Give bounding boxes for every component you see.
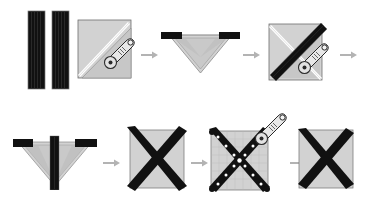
arrow-right-4: [103, 154, 120, 164]
triangle-center-strip-icon: [13, 128, 97, 190]
step-4-square-diagonal-strip-cutter: square with dark diagonal strip, trimmed…: [263, 15, 335, 87]
square-diagonal-cutter-icon: [76, 18, 142, 82]
triangle-strips-icon: [161, 29, 240, 77]
step-3-triangle-strips: folded triangle with dark strips at the …: [161, 29, 240, 77]
arrow-right-2: [243, 46, 260, 56]
two-strips-icon: [25, 9, 73, 91]
arrow-right-5: [191, 154, 208, 164]
step-8-square-x-final: completed trimmed X block: [295, 126, 357, 192]
step-2-square-diagonal-cutter: light square folded on the diagonal, cut…: [76, 18, 142, 82]
step-1-two-strips: two dark fabric strips: [25, 9, 73, 91]
square-x-icon: [126, 126, 188, 192]
arrow-right-3: [340, 46, 357, 56]
arrow-right-1: [141, 46, 158, 56]
step-6-square-x: finished square with dark X: [126, 126, 188, 192]
square-x-final-icon: [295, 126, 357, 192]
diagram-canvas: Quilt block assembly steps two dark fabr…: [0, 0, 366, 208]
rotary-cutter-icon: [256, 114, 287, 145]
step-5-triangle-center-strip: triangle with centre strip and corner st…: [13, 128, 97, 190]
step-7-square-x-mat-cutter: block pinned on gridded cutting mat, tri…: [208, 111, 288, 193]
square-diagonal-strip-cutter-icon: [263, 15, 335, 87]
diagram-title: Quilt block assembly steps: [0, 0, 1, 1]
square-x-mat-cutter-icon: [208, 111, 288, 193]
